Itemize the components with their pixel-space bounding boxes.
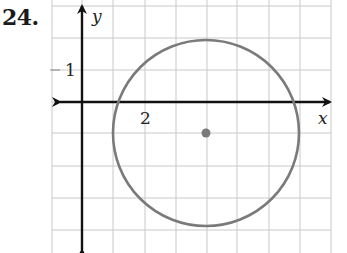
coordinate-plane: y x 2 1 xyxy=(0,0,347,253)
y-axis-label: y xyxy=(91,6,102,26)
x-tick-label: 2 xyxy=(140,108,151,128)
center-point xyxy=(202,129,211,138)
y-tick-label: 1 xyxy=(65,60,76,80)
grid-lines xyxy=(52,0,331,253)
x-axis-label: x xyxy=(318,108,328,128)
